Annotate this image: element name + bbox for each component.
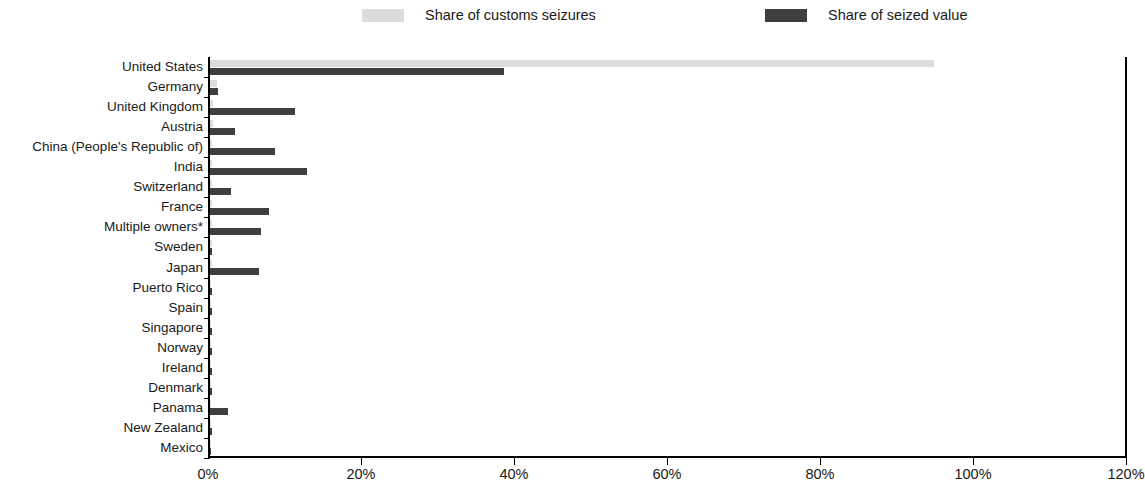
- y-axis-label: New Zealand: [0, 421, 203, 435]
- bar-seized-value: [210, 368, 212, 375]
- bar-seized-value: [210, 448, 211, 455]
- x-axis-tick-label: 40%: [499, 466, 528, 482]
- x-axis-tick: [820, 458, 821, 465]
- y-axis-tick: [204, 258, 210, 259]
- plot-area: [208, 57, 1126, 458]
- y-axis-label: Japan: [0, 261, 203, 275]
- bar-seized-value: [210, 268, 259, 275]
- y-axis-label: Norway: [0, 341, 203, 355]
- bar-customs-seizures: [210, 80, 217, 87]
- y-axis-label: France: [0, 200, 203, 214]
- bar-seized-value: [210, 328, 212, 335]
- bar-customs-seizures: [210, 260, 212, 267]
- x-axis-tick: [667, 458, 668, 465]
- y-axis-tick: [204, 338, 210, 339]
- bar-seized-value: [210, 348, 212, 355]
- y-axis-tick: [204, 418, 210, 419]
- x-axis-tick: [973, 458, 974, 465]
- bar-seized-value: [210, 108, 295, 115]
- bar-customs-seizures: [210, 100, 213, 107]
- y-axis-label: India: [0, 160, 203, 174]
- x-axis-tick-label: 80%: [805, 466, 834, 482]
- y-axis-label: Puerto Rico: [0, 281, 203, 295]
- dark-gray-swatch-icon: [765, 9, 807, 22]
- y-axis-tick: [204, 378, 210, 379]
- y-axis-label: United States: [0, 60, 203, 74]
- bar-customs-seizures: [210, 280, 211, 287]
- bar-seized-value: [210, 388, 212, 395]
- bar-customs-seizures: [210, 220, 212, 227]
- y-axis-tick: [204, 97, 210, 98]
- bar-seized-value: [210, 168, 307, 175]
- x-axis-tick-label: 0%: [198, 466, 219, 482]
- x-axis-tick-labels: 0%20%40%60%80%100%120%: [0, 466, 1138, 489]
- y-axis-category-labels: United StatesGermanyUnited KingdomAustri…: [0, 57, 203, 458]
- x-axis-tick-label: 120%: [1107, 466, 1144, 482]
- bar-customs-seizures: [210, 380, 211, 387]
- bar-seized-value: [210, 308, 212, 315]
- y-axis-label: Denmark: [0, 381, 203, 395]
- bar-customs-seizures: [210, 240, 212, 247]
- bar-customs-seizures: [210, 160, 212, 167]
- legend-label-customs-seizures: Share of customs seizures: [425, 7, 596, 23]
- bar-seized-value: [210, 148, 275, 155]
- y-axis-tick: [204, 298, 210, 299]
- bar-seized-value: [210, 248, 212, 255]
- y-axis-label: Sweden: [0, 240, 203, 254]
- bar-customs-seizures: [210, 120, 213, 127]
- y-axis-label: Mexico: [0, 441, 203, 455]
- y-axis-label: Multiple owners*: [0, 220, 203, 234]
- x-axis-tick-label: 20%: [346, 466, 375, 482]
- bar-seized-value: [210, 208, 269, 215]
- bar-customs-seizures: [210, 420, 211, 427]
- y-axis-tick: [204, 157, 210, 158]
- legend-item-customs-seizures: Share of customs seizures: [362, 7, 596, 23]
- y-axis-tick: [204, 318, 210, 319]
- chart-legend: Share of customs seizures Share of seize…: [0, 0, 1138, 40]
- bar-seized-value: [210, 228, 261, 235]
- legend-item-seized-value: Share of seized value: [765, 7, 967, 23]
- y-axis-label: Austria: [0, 120, 203, 134]
- y-axis-label: Germany: [0, 80, 203, 94]
- x-axis-tick: [514, 458, 515, 465]
- bar-seized-value: [210, 408, 228, 415]
- bar-customs-seizures: [210, 340, 211, 347]
- y-axis-tick: [204, 137, 210, 138]
- bar-customs-seizures: [210, 140, 212, 147]
- bar-customs-seizures: [210, 440, 211, 447]
- bar-seized-value: [210, 88, 218, 95]
- y-axis-label: Switzerland: [0, 180, 203, 194]
- x-axis-tick: [1126, 458, 1127, 465]
- bar-seized-value: [210, 68, 504, 75]
- bar-seized-value: [210, 288, 212, 295]
- y-axis-tick: [204, 358, 210, 359]
- y-axis-label: Singapore: [0, 321, 203, 335]
- bar-customs-seizures: [210, 60, 934, 67]
- y-axis-label: China (People's Republic of): [0, 140, 203, 154]
- y-axis-tick: [204, 77, 210, 78]
- y-axis-tick: [204, 237, 210, 238]
- y-axis-label: Spain: [0, 301, 203, 315]
- bar-customs-seizures: [210, 400, 211, 407]
- bar-customs-seizures: [210, 180, 212, 187]
- x-axis-ticks: [208, 458, 1126, 466]
- y-axis-tick: [204, 117, 210, 118]
- y-axis-label: Ireland: [0, 361, 203, 375]
- bar-customs-seizures: [210, 300, 211, 307]
- y-axis-label: United Kingdom: [0, 100, 203, 114]
- light-gray-swatch-icon: [362, 9, 404, 22]
- bar-customs-seizures: [210, 360, 211, 367]
- bar-seized-value: [210, 428, 212, 435]
- y-axis-tick: [204, 398, 210, 399]
- bar-seized-value: [210, 188, 231, 195]
- x-axis-tick-label: 100%: [954, 466, 991, 482]
- y-axis-tick: [204, 278, 210, 279]
- y-axis-label: Panama: [0, 401, 203, 415]
- y-axis-tick: [204, 177, 210, 178]
- y-axis-tick: [204, 438, 210, 439]
- y-axis-tick: [204, 217, 210, 218]
- bar-seized-value: [210, 128, 235, 135]
- x-axis-tick-label: 60%: [652, 466, 681, 482]
- y-axis-tick: [204, 197, 210, 198]
